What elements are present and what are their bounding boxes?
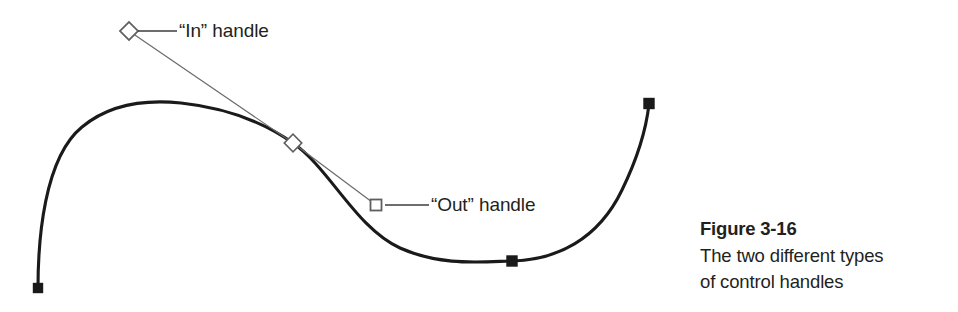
figure-caption-line-1: The two different types (700, 243, 945, 270)
out-handle-group (371, 200, 430, 211)
figure-caption: Figure 3-16 The two different types of c… (700, 216, 945, 296)
in-handle-label: “In” handle (179, 21, 269, 40)
bezier-curve-group (38, 102, 649, 288)
in-handle-group (120, 22, 177, 40)
out-handle-square-icon[interactable] (371, 200, 382, 211)
anchor-end-filled-square[interactable] (644, 99, 654, 109)
out-handle-label: “Out” handle (431, 195, 535, 214)
bezier-curve-path (38, 102, 649, 288)
out-handle-tangent-line (293, 143, 376, 205)
in-handle-diamond-icon[interactable] (120, 22, 138, 40)
anchor-start-filled-square[interactable] (34, 284, 43, 293)
figure-caption-line-2: of control handles (700, 269, 945, 296)
figure-caption-title: Figure 3-16 (700, 216, 945, 243)
figure-container: “In” handle “Out” handle Figure 3-16 The… (0, 0, 958, 312)
control-handle-lines (129, 31, 376, 205)
anchor-bottom-filled-square[interactable] (507, 256, 517, 266)
in-handle-tangent-line (129, 31, 293, 143)
